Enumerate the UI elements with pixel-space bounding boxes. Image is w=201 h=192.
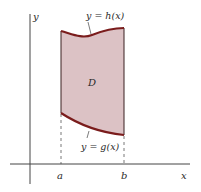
- g-label-leader: [87, 131, 89, 138]
- y-axis-label: y: [32, 11, 39, 22]
- upper-curve-label: y = h(x): [85, 10, 125, 21]
- x-axis-label: x: [181, 170, 187, 181]
- lower-curve-label: y = g(x): [80, 141, 120, 152]
- h-label-leader: [88, 22, 91, 34]
- region-diagram: y x y = h(x) y = g(x) D a b: [0, 0, 201, 192]
- bound-a-label: a: [57, 170, 63, 181]
- bound-b-label: b: [121, 170, 127, 181]
- region-label: D: [87, 77, 96, 88]
